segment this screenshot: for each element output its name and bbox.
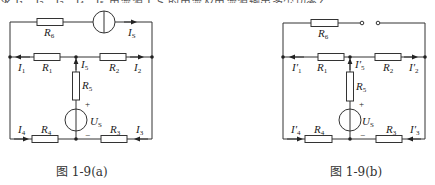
circuit-diagrams: R6 IS I1 R1 I5 R2 I2 R5 + US − I4 R4 R3 … <box>0 0 435 185</box>
caption-figure-b: 图 1-9(b) <box>330 162 382 179</box>
resistor-a-R1 <box>34 54 60 61</box>
label-a-minus: − <box>85 130 90 140</box>
label-b-I5: I′5 <box>354 58 365 72</box>
label-b-I2: I′2 <box>408 61 419 75</box>
resistor-b-R2 <box>375 54 401 61</box>
label-a-plus: + <box>85 99 90 109</box>
label-b-minus: − <box>360 130 365 140</box>
label-b-I4: I′4 <box>290 123 301 137</box>
label-a-I1: I1 <box>17 61 26 75</box>
label-b-I1: I′1 <box>291 61 302 75</box>
node-a <box>74 55 78 59</box>
label-b-plus: + <box>359 99 364 109</box>
label-a-R2: R2 <box>108 61 120 75</box>
label-a-I5: I5 <box>80 58 89 72</box>
label-a-R6: R6 <box>43 26 55 40</box>
label-b-US: US <box>362 115 374 129</box>
label-b-R3: R3 <box>385 123 397 137</box>
resistor-b-R4 <box>305 136 332 143</box>
label-a-US: US <box>90 115 102 129</box>
open-terminal-left <box>360 21 364 25</box>
label-b-I3: I′3 <box>409 123 420 137</box>
voltage-source-b-US <box>339 109 361 131</box>
resistor-a-R5 <box>73 72 80 100</box>
label-a-I2: I2 <box>133 61 142 75</box>
label-b-R1: R1 <box>316 61 328 75</box>
node-a <box>8 55 12 59</box>
label-a-R1: R1 <box>41 61 53 75</box>
label-a-IS: IS <box>127 26 136 40</box>
label-b-R2: R2 <box>382 61 394 75</box>
open-terminal-right <box>376 21 380 25</box>
label-b-R5: R5 <box>355 80 367 94</box>
label-a-I4: I4 <box>17 123 26 137</box>
circuit-a <box>8 11 154 143</box>
resistor-b-R3 <box>376 136 402 143</box>
node-b <box>348 137 352 141</box>
resistor-a-R6 <box>37 19 63 26</box>
circuit-b <box>281 20 427 143</box>
label-b-R4: R4 <box>313 123 325 137</box>
label-a-R4: R4 <box>40 123 52 137</box>
node-b <box>423 55 427 59</box>
node-b <box>348 55 352 59</box>
node-a <box>150 55 154 59</box>
label-a-R5: R5 <box>81 79 93 93</box>
caption-figure-a: 图 1-9(a) <box>56 162 108 179</box>
resistor-b-R1 <box>318 54 344 61</box>
resistor-b-R6 <box>311 20 338 27</box>
resistor-a-R3 <box>101 136 127 143</box>
current-source-a-IS <box>93 11 115 33</box>
label-b-R6: R6 <box>317 27 329 41</box>
label-a-I3: I3 <box>135 123 144 137</box>
resistor-a-R2 <box>100 54 126 61</box>
label-a-R3: R3 <box>109 123 121 137</box>
resistor-a-R4 <box>32 136 58 143</box>
node-b <box>281 55 285 59</box>
node-a <box>74 137 78 141</box>
voltage-source-a-US <box>65 109 87 131</box>
resistor-b-R5 <box>347 72 354 101</box>
